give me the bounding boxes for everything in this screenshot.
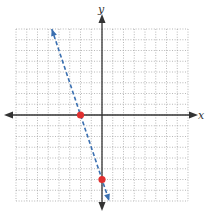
x-axis-right-arrow-icon xyxy=(189,112,198,119)
x-axis-label: x xyxy=(198,109,205,122)
data-point xyxy=(98,176,105,183)
line-arrow-top-icon xyxy=(51,29,57,37)
y-axis-label: y xyxy=(97,3,105,16)
y-axis-bottom-arrow-icon xyxy=(99,202,106,211)
x-axis-left-arrow-icon xyxy=(4,112,13,119)
line-arrow-bottom-icon xyxy=(104,193,110,201)
coordinate-graph: x y xyxy=(0,0,205,213)
data-point xyxy=(77,111,84,118)
